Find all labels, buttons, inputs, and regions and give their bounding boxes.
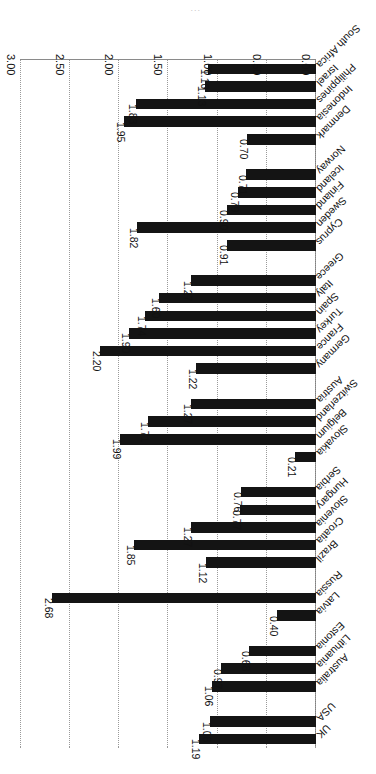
- bar-value-label: 1.71: [140, 422, 151, 442]
- bar[interactable]: [249, 646, 316, 657]
- bar[interactable]: [221, 663, 316, 674]
- bar-value-label: 1.85: [126, 545, 137, 565]
- value-axis-tick-label: 0.00: [300, 54, 311, 75]
- bar-value-label: 0.91: [218, 245, 229, 265]
- bar[interactable]: [212, 681, 316, 692]
- bar[interactable]: [52, 593, 316, 604]
- bar-value-label: 0.68: [241, 651, 252, 671]
- bar-value-label: 0.70: [239, 139, 250, 159]
- bar-value-label: 1.95: [116, 122, 127, 142]
- bar-value-label: 1.12: [198, 563, 209, 583]
- bar-row[interactable]: 1.27Greece: [21, 275, 316, 286]
- bar-row[interactable]: 1.95Indonesia: [21, 116, 316, 127]
- bar-value-label: 0.71: [238, 175, 249, 195]
- bar-value-label: 1.60: [150, 298, 161, 318]
- bar-value-label: 1.82: [129, 228, 140, 248]
- bar-value-label: 1.27: [183, 404, 194, 424]
- bar-value-label: 1.22: [188, 369, 199, 389]
- bar-row[interactable]: 1.85Croatia: [21, 540, 316, 551]
- bar-row[interactable]: 1.27Slovenia: [21, 522, 316, 533]
- bar[interactable]: [191, 275, 316, 286]
- bar-row[interactable]: 0.91Cyprus: [21, 240, 316, 251]
- bar-row[interactable]: 1.06Australia: [21, 681, 316, 692]
- bar-row[interactable]: 2.20France: [21, 346, 316, 357]
- bar-row[interactable]: 1.74Spain: [21, 311, 316, 322]
- bar[interactable]: [134, 540, 316, 551]
- bar-row[interactable]: 1.19UK: [21, 734, 316, 745]
- bar-value-label: 1.19: [191, 739, 202, 759]
- bar-row[interactable]: 1.27Austria: [21, 399, 316, 410]
- bar-row[interactable]: 1.08USA: [21, 716, 316, 727]
- bar-row[interactable]: 0.97Lithuania: [21, 663, 316, 674]
- chart-rotation-wrapper: 1.19UK1.08USA1.06Australia0.97Lithuania0…: [0, 0, 376, 774]
- bar-value-label: 0.76: [233, 492, 244, 512]
- bar-row[interactable]: 1.12Brazil: [21, 557, 316, 568]
- bar-row[interactable]: 1.83Philippines: [21, 99, 316, 110]
- category-tick-label: USA: [312, 700, 337, 725]
- bar-row[interactable]: 0.90Finland: [21, 205, 316, 216]
- bar[interactable]: [191, 399, 316, 410]
- bar[interactable]: [124, 116, 316, 127]
- value-axis-tick-label: 2.50: [54, 54, 65, 75]
- bar[interactable]: [227, 240, 316, 251]
- bar-value-label: 1.90: [121, 333, 132, 353]
- bar[interactable]: [238, 187, 316, 198]
- bar-value-label: 1.27: [183, 528, 194, 548]
- bar[interactable]: [205, 81, 316, 92]
- bar-row[interactable]: 0.71Norway: [21, 169, 316, 180]
- bar-row[interactable]: 0.77Hungary: [21, 505, 316, 516]
- bar-value-label: 1.08: [202, 722, 213, 742]
- bar-value-label: 2.20: [91, 351, 102, 371]
- bar-row[interactable]: 0.21Slovakia: [21, 452, 316, 463]
- bar-row[interactable]: 1.99Belgium: [21, 434, 316, 445]
- bar-value-label: 0.90: [219, 210, 230, 230]
- bar-row[interactable]: 0.40Latvia: [21, 610, 316, 621]
- bar-row[interactable]: 1.22Germany: [21, 363, 316, 374]
- bar[interactable]: [240, 505, 316, 516]
- bar[interactable]: [148, 416, 316, 427]
- bar[interactable]: [196, 363, 316, 374]
- bar-row[interactable]: 0.68Estonia: [21, 646, 316, 657]
- value-axis-tick-label: 1.00: [202, 54, 213, 75]
- bar-value-label: 1.83: [128, 104, 139, 124]
- bar[interactable]: [136, 99, 316, 110]
- bar[interactable]: [199, 734, 316, 745]
- bar[interactable]: [246, 169, 316, 180]
- bar[interactable]: [129, 328, 316, 339]
- value-axis-tick-label: 3.00: [5, 54, 16, 75]
- bar-row[interactable]: 1.71Switzerland: [21, 416, 316, 427]
- bar-row[interactable]: 1.13Israel: [21, 81, 316, 92]
- bar-value-label: 0.40: [268, 616, 279, 636]
- bar[interactable]: [191, 522, 316, 533]
- value-axis-tick-label: 1.50: [153, 54, 164, 75]
- bar-chart-figure: 1.19UK1.08USA1.06Australia0.97Lithuania0…: [0, 0, 376, 774]
- bar-value-label: 1.74: [137, 316, 148, 336]
- bar-row[interactable]: 1.82Sweden: [21, 222, 316, 233]
- bar-row[interactable]: 0.70Denmark: [21, 134, 316, 145]
- bar[interactable]: [247, 134, 316, 145]
- bar-row[interactable]: 2.68Russia: [21, 593, 316, 604]
- bar-row[interactable]: 0.79Iceland: [21, 187, 316, 198]
- bar[interactable]: [277, 610, 316, 621]
- bar-value-label: 1.27: [183, 281, 194, 301]
- plot-area: 1.19UK1.08USA1.06Australia0.97Lithuania0…: [21, 60, 316, 748]
- bar[interactable]: [241, 487, 316, 498]
- bar-value-label: 2.68: [44, 598, 55, 618]
- bar-value-label: 0.77: [232, 510, 243, 530]
- bar[interactable]: [206, 557, 316, 568]
- bar-row[interactable]: 1.90Turkey: [21, 328, 316, 339]
- bar-value-label: 0.21: [287, 457, 298, 477]
- bar[interactable]: [145, 311, 316, 322]
- bar-row[interactable]: 1.60Italy: [21, 293, 316, 304]
- bar-value-label: 0.97: [212, 669, 223, 689]
- bar-row[interactable]: 0.76Serbia: [21, 487, 316, 498]
- value-axis-tick-label: 0.50: [251, 54, 262, 75]
- axis-caption: ...: [189, 8, 200, 17]
- bar-value-label: 1.99: [112, 439, 123, 459]
- value-axis-tick-label: 2.00: [103, 54, 114, 75]
- bar[interactable]: [210, 716, 316, 727]
- bar-value-label: 1.13: [197, 86, 208, 106]
